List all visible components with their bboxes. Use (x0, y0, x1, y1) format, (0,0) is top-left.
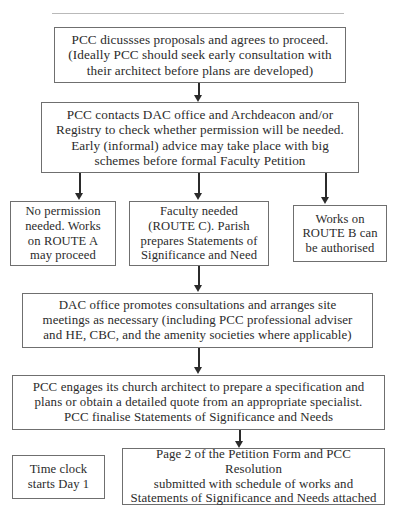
node-dac-office-consultations: DAC office promotes consultations and ar… (22, 293, 373, 348)
node-label: Works on ROUTE B can be authorised (302, 212, 377, 256)
scan-edge-artifact (52, 13, 344, 14)
node-label: Faculty needed (ROUTE C). Parish prepare… (141, 204, 258, 262)
node-label: PCC contacts DAC office and Archdeacon a… (56, 107, 344, 168)
arrow-contacts-to-route-b-line (325, 173, 327, 198)
arrow-engages-to-page-2-head (235, 441, 243, 448)
arrow-faculty-to-dac-line (198, 266, 200, 286)
node-pcc-engages-architect: PCC engages its church architect to prep… (12, 375, 385, 430)
arrow-proposals-to-contacts-head (194, 95, 202, 102)
node-label: PCC engages its church architect to prep… (33, 380, 365, 425)
arrow-faculty-to-dac-head (194, 285, 202, 292)
node-label: PCC dicussses proposals and agrees to pr… (68, 32, 331, 78)
arrow-contacts-to-no-permission-head (75, 193, 83, 200)
node-label: Page 2 of the Petition Form and PCC Reso… (126, 447, 381, 507)
arrow-dac-to-engages-head (194, 367, 202, 374)
arrow-contacts-to-route-b-head (321, 197, 329, 204)
node-no-permission-route-a: No permission needed. Works on ROUTE A m… (10, 201, 116, 266)
node-label: No permission needed. Works on ROUTE A m… (25, 204, 101, 262)
arrow-contacts-to-faculty-head (194, 193, 202, 200)
flowchart-canvas: PCC dicussses proposals and agrees to pr… (0, 0, 396, 515)
node-label: DAC office promotes consultations and ar… (43, 298, 353, 343)
node-pcc-discusses-proposals: PCC dicussses proposals and agrees to pr… (54, 27, 346, 83)
node-petition-form-page-2: Page 2 of the Petition Form and PCC Reso… (122, 448, 385, 505)
node-pcc-contacts-dac: PCC contacts DAC office and Archdeacon a… (41, 102, 359, 173)
node-label: Time clock starts Day 1 (28, 462, 89, 491)
arrow-contacts-to-no-permission-line (79, 173, 81, 194)
arrow-dac-to-engages-line (198, 348, 200, 368)
arrow-contacts-to-faculty-line (198, 173, 200, 194)
node-time-clock-starts: Time clock starts Day 1 (12, 455, 105, 499)
node-works-route-b-authorised: Works on ROUTE B can be authorised (293, 205, 387, 262)
node-faculty-needed-route-c: Faculty needed (ROUTE C). Parish prepare… (129, 201, 269, 266)
